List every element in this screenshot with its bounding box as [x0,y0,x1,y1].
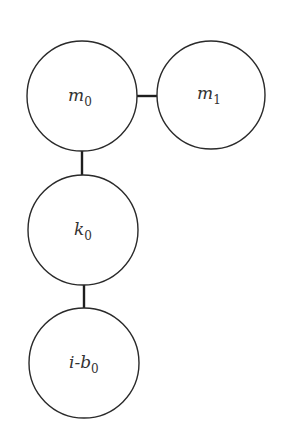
node-k0-subscript: 0 [84,229,92,243]
tree-diagram: m0 m1 k0 i-b0 [0,0,286,430]
node-ib0: i-b0 [29,308,139,418]
node-m1-subscript: 1 [213,93,221,107]
node-ib0-subscript: 0 [91,362,99,376]
node-ib0-label: i-b [69,352,91,372]
node-k0-label: k [74,219,84,239]
node-m1: m1 [157,41,265,149]
node-m1-label: m [197,83,213,103]
node-m0-subscript: 0 [84,95,92,109]
node-m0: m0 [27,41,137,151]
node-m0-label: m [68,85,84,105]
node-k0: k0 [28,175,138,285]
